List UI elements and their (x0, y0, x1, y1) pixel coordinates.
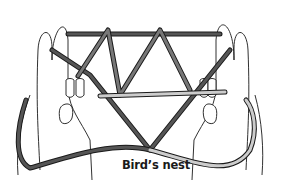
right-hand (192, 25, 263, 180)
figure-caption: Bird’s nest (122, 158, 190, 172)
